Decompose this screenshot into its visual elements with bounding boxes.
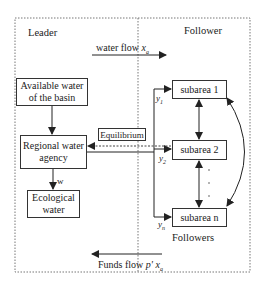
arrow-subarea-1-n-curve xyxy=(227,98,245,206)
available-water-box: Available water of the basin xyxy=(16,78,88,106)
ellipsis-dot xyxy=(208,195,210,197)
ellipsis-dot xyxy=(208,169,210,171)
w-label: w xyxy=(57,176,64,187)
funds-flow-label: Funds flow p' xa xyxy=(98,259,163,275)
y1-label: y1 xyxy=(156,93,163,108)
y2-label: y2 xyxy=(159,153,166,168)
followers-label: Followers xyxy=(172,232,214,243)
water-flow-label: water flow xa xyxy=(96,42,149,58)
subarea-1-box: subarea 1 xyxy=(172,80,227,99)
ellipsis-dot xyxy=(208,182,210,184)
leader-label: Leader xyxy=(28,27,57,38)
subarea-n-box: subarea n xyxy=(172,208,227,227)
regional-water-agency-box: Regional water agency xyxy=(20,135,87,169)
subarea-2-box: subarea 2 xyxy=(172,140,227,160)
follower-label: Follower xyxy=(184,25,222,36)
yn-label: yn xyxy=(158,219,165,234)
ecological-water-box: Ecological water xyxy=(27,190,80,218)
equilibrium-box: Equilibrium xyxy=(98,128,146,141)
